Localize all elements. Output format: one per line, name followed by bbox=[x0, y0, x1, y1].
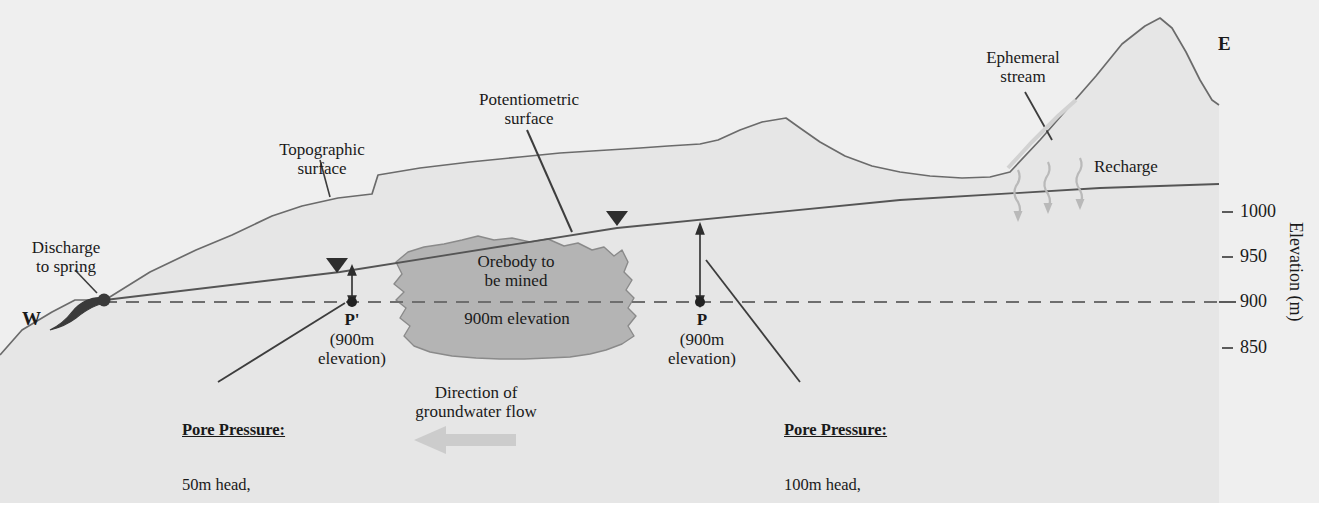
point-p-dot bbox=[695, 297, 705, 307]
axis-tick-900: 900 bbox=[1240, 291, 1267, 311]
spring-point bbox=[98, 294, 111, 307]
point-note-p-line1: (900m bbox=[642, 330, 762, 349]
label-discharge-to-spring: Discharge to spring bbox=[2, 238, 130, 276]
annotation-right-heading1: Pore Pressure: bbox=[784, 421, 948, 439]
point-p-prime-dot bbox=[347, 297, 357, 307]
annotation-left-heading1: Pore Pressure: bbox=[182, 421, 346, 439]
label-ephemeral-stream: Ephemeral stream bbox=[952, 48, 1094, 86]
cross-section-figure: W E Topographic surface Potentiometric s… bbox=[0, 0, 1319, 520]
point-note-p-prime-line1: (900m bbox=[292, 330, 412, 349]
point-label-p-prime: P' bbox=[322, 310, 382, 329]
axis-tick-1000: 1000 bbox=[1240, 201, 1276, 221]
label-orebody-elevation: 900m elevation bbox=[422, 309, 612, 328]
annotation-left-line1: 50m head, bbox=[182, 476, 346, 494]
compass-west: W bbox=[22, 308, 42, 329]
label-orebody-line2: be mined bbox=[436, 271, 596, 290]
compass-east: E bbox=[1218, 33, 1231, 54]
axis-tick-850: 850 bbox=[1240, 337, 1267, 357]
point-label-p: P bbox=[672, 310, 732, 329]
annotation-block-right: Pore Pressure: 100m head, ~980 kPa Total… bbox=[784, 384, 948, 520]
annotation-block-left: Pore Pressure: 50m head, ~490 kPa Total … bbox=[182, 384, 346, 520]
axis-title-elevation: Elevation (m) bbox=[1286, 222, 1306, 321]
point-note-p-prime-line2: elevation) bbox=[292, 349, 412, 368]
label-recharge: Recharge bbox=[1094, 157, 1158, 176]
label-flow-direction: Direction of groundwater flow bbox=[396, 383, 556, 421]
point-note-p-line2: elevation) bbox=[642, 349, 762, 368]
annotation-right-line1: 100m head, bbox=[784, 476, 948, 494]
label-orebody-line1: Orebody to bbox=[436, 252, 596, 271]
axis-tick-950: 950 bbox=[1240, 246, 1267, 266]
label-topographic-surface: Topographic surface bbox=[252, 140, 392, 178]
label-potentiometric-surface: Potentiometric surface bbox=[443, 90, 615, 128]
